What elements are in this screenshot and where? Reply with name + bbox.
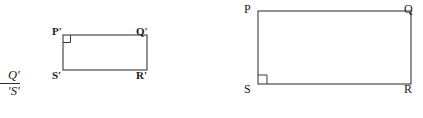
geometry-figure bbox=[0, 0, 423, 118]
small-rectangle-outline bbox=[63, 35, 147, 70]
vertex-label-q-prime: Q' bbox=[136, 26, 148, 37]
vertex-label-s: S bbox=[244, 83, 251, 95]
vertex-label-q: Q bbox=[404, 3, 413, 15]
small-rectangle bbox=[63, 35, 147, 70]
vertex-label-r: R bbox=[404, 83, 412, 95]
vertex-label-s-prime: S' bbox=[52, 70, 61, 81]
right-angle-mark-large bbox=[258, 75, 267, 84]
right-angle-mark-small bbox=[63, 35, 71, 43]
large-rectangle-outline bbox=[258, 11, 411, 84]
vertex-label-p: P bbox=[244, 3, 251, 15]
vertex-label-r-prime: R' bbox=[136, 70, 147, 81]
large-rectangle bbox=[258, 11, 411, 84]
vertex-label-p-prime: P' bbox=[52, 26, 62, 37]
